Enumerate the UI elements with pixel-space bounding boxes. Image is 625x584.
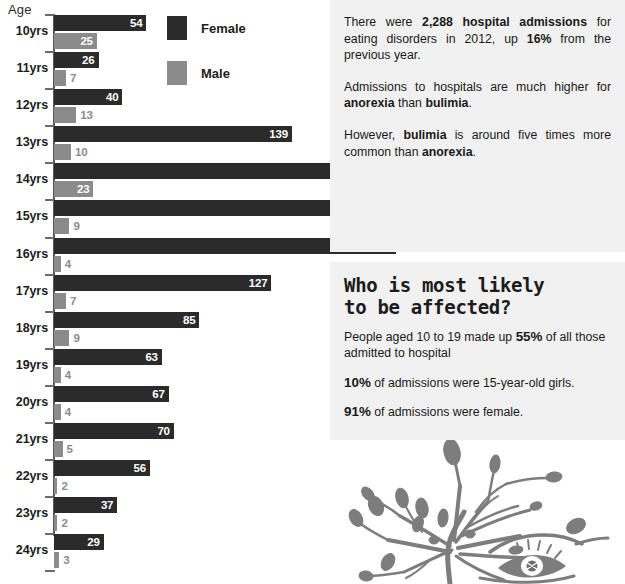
who-is-affected-panel: Who is most likely to be affected? Peopl… xyxy=(330,262,625,440)
stat-3-text-after: . xyxy=(473,145,476,159)
stat-1-text-before: There were xyxy=(344,15,422,29)
bar-male: 10 xyxy=(54,144,71,160)
chart-row: 18yrs859 xyxy=(0,311,330,348)
bar-male: 5 xyxy=(54,441,63,457)
bar-group: 5425 xyxy=(54,14,146,49)
stat-paragraph-3: However, bulimia is around five times mo… xyxy=(344,127,611,160)
age-label: 20yrs xyxy=(0,395,48,409)
age-label: 12yrs xyxy=(0,98,48,112)
legend-item-male: Male xyxy=(167,61,246,85)
bar-value-label: 23 xyxy=(77,183,89,195)
bar-female: 40 xyxy=(54,89,122,105)
who-heading-line-1: Who is most likely xyxy=(344,274,545,296)
chart-row: 10yrs5425 xyxy=(0,14,330,51)
bar-group: 293 xyxy=(54,533,104,568)
age-label: 16yrs xyxy=(0,247,48,261)
age-label: 22yrs xyxy=(0,469,48,483)
chart-row: 16yrs2004 xyxy=(0,237,330,274)
bar-male: 7 xyxy=(54,293,66,309)
legend-swatch-female-icon xyxy=(167,16,187,40)
stat-1-bold-admissions: 2,288 hospital admissions xyxy=(422,15,587,29)
bar-value-label: 5 xyxy=(67,443,73,455)
bar-group: 372 xyxy=(54,496,117,531)
bar-value-label: 63 xyxy=(145,351,157,363)
chart-row: 15yrs2229 xyxy=(0,199,330,236)
age-label: 17yrs xyxy=(0,284,48,298)
legend-item-female: Female xyxy=(167,16,246,40)
bar-male: 4 xyxy=(54,256,61,272)
bar-group: 4013 xyxy=(54,88,122,123)
chart-legend: Female Male xyxy=(167,16,246,106)
bar-male: 4 xyxy=(54,404,61,420)
bar-group: 18523 xyxy=(54,162,371,197)
stat-2-text-after: . xyxy=(468,96,471,110)
legend-label-female: Female xyxy=(201,21,246,36)
bar-male: 9 xyxy=(54,218,69,234)
who-panel-heading: Who is most likely to be affected? xyxy=(344,274,611,318)
bar-value-label: 85 xyxy=(183,314,195,326)
bar-female: 127 xyxy=(54,275,271,291)
bar-male: 23 xyxy=(54,181,93,197)
bar-value-label: 54 xyxy=(130,17,142,29)
illustration-svg xyxy=(330,440,625,584)
stat-paragraph-1: There were 2,288 hospital admissions for… xyxy=(344,14,611,64)
bar-group: 562 xyxy=(54,459,150,494)
bar-male: 13 xyxy=(54,107,76,123)
who-heading-line-2: to be affected? xyxy=(344,296,511,318)
bar-value-label: 26 xyxy=(82,54,94,66)
chart-row: 23yrs372 xyxy=(0,496,330,533)
who-2-text-after: of admissions were 15-year-old girls. xyxy=(371,376,575,390)
bar-male: 7 xyxy=(54,70,66,86)
age-label: 19yrs xyxy=(0,358,48,372)
chart-plot-area: 10yrs542511yrs26712yrs401313yrs1391014yr… xyxy=(0,14,330,539)
bar-value-label: 67 xyxy=(152,388,164,400)
bar-group: 267 xyxy=(54,51,99,86)
stat-1-bold-percent: 16% xyxy=(527,32,552,46)
stat-2-text-before: Admissions to hospitals are much higher … xyxy=(344,80,611,94)
chart-row: 14yrs18523 xyxy=(0,162,330,199)
stat-2-bold-anorexia: anorexia xyxy=(344,96,395,110)
chart-row: 17yrs1277 xyxy=(0,274,330,311)
who-fact-1: People aged 10 to 19 made up 55% of all … xyxy=(344,329,611,362)
bar-value-label: 4 xyxy=(65,369,71,381)
age-label: 15yrs xyxy=(0,209,48,223)
bar-male: 2 xyxy=(54,478,57,494)
bar-value-label: 139 xyxy=(269,128,288,140)
bar-female: 54 xyxy=(54,15,146,31)
bar-female: 37 xyxy=(54,497,117,513)
bar-value-label: 7 xyxy=(70,295,76,307)
age-label: 10yrs xyxy=(0,24,48,38)
bar-value-label: 4 xyxy=(65,406,71,418)
bar-female: 56 xyxy=(54,460,150,476)
bar-female: 29 xyxy=(54,534,104,550)
bar-value-label: 70 xyxy=(157,425,169,437)
bar-group: 705 xyxy=(54,422,174,457)
bar-female: 26 xyxy=(54,52,99,68)
branches-and-eye-illustration xyxy=(330,440,625,584)
chart-row: 22yrs562 xyxy=(0,459,330,496)
age-distribution-chart: Age 10yrs542511yrs26712yrs401313yrs13910… xyxy=(0,0,330,584)
axis-tick xyxy=(45,570,55,572)
stat-3-bold-anorexia: anorexia xyxy=(422,145,473,159)
bar-value-label: 4 xyxy=(65,258,71,270)
bar-female: 70 xyxy=(54,423,174,439)
who-3-text-after: of admissions were female. xyxy=(371,405,523,419)
age-label: 21yrs xyxy=(0,432,48,446)
bar-group: 1277 xyxy=(54,274,271,309)
bar-value-label: 10 xyxy=(75,146,87,158)
bar-value-label: 2 xyxy=(61,517,67,529)
who-fact-2: 10% of admissions were 15-year-old girls… xyxy=(344,375,611,391)
age-label: 14yrs xyxy=(0,172,48,186)
bar-group: 674 xyxy=(54,385,169,420)
bar-value-label: 7 xyxy=(70,72,76,84)
bar-value-label: 56 xyxy=(133,462,145,474)
bar-group: 634 xyxy=(54,348,162,383)
legend-label-male: Male xyxy=(201,66,230,81)
chart-row: 21yrs705 xyxy=(0,422,330,459)
stat-2-text-middle: than xyxy=(395,96,426,110)
chart-row: 19yrs634 xyxy=(0,348,330,385)
chart-row: 20yrs674 xyxy=(0,385,330,422)
bar-group: 859 xyxy=(54,311,199,346)
bar-value-label: 3 xyxy=(63,554,69,566)
who-1-text-before: People aged 10 to 19 made up xyxy=(344,330,516,344)
